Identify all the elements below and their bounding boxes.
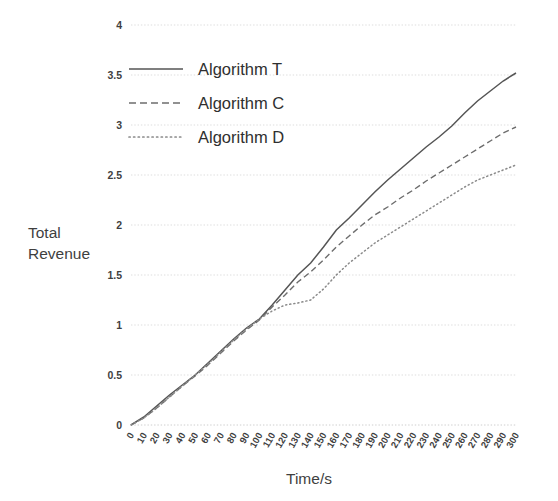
legend-swatch-dashed (128, 97, 184, 109)
legend-label-algorithm-t: Algorithm T (198, 60, 282, 79)
legend-swatch-dotted (128, 131, 184, 143)
y-tick-label: 2 (116, 219, 122, 231)
chart-legend: Algorithm T Algorithm C Algorithm D (128, 52, 284, 154)
x-tick-label: 70 (211, 431, 226, 446)
x-tick-label: 300 (504, 431, 521, 450)
y-tick-label: 2.5 (107, 169, 122, 181)
y-tick-label: 4 (116, 19, 122, 31)
x-tick-label: 80 (224, 431, 239, 446)
y-tick-labels: 00.511.522.533.54 (107, 19, 122, 431)
legend-label-algorithm-d: Algorithm D (198, 128, 284, 147)
legend-item-algorithm-c: Algorithm C (128, 86, 284, 120)
revenue-line-chart: Total Revenue 00.511.522.533.54 01020304… (0, 0, 558, 501)
legend-item-algorithm-t: Algorithm T (128, 52, 284, 86)
x-tick-label: 40 (173, 431, 188, 446)
x-tick-label: 30 (160, 431, 175, 446)
x-tick-label: 60 (198, 431, 213, 446)
legend-swatch-solid (128, 63, 184, 75)
x-axis-title: Time/s (0, 470, 558, 488)
x-tick-label: 10 (134, 431, 149, 446)
x-tick-label: 50 (186, 431, 201, 446)
legend-item-algorithm-d: Algorithm D (128, 120, 284, 154)
y-tick-label: 0 (116, 419, 122, 431)
x-tick-label: 20 (147, 431, 162, 446)
legend-label-algorithm-c: Algorithm C (198, 94, 284, 113)
x-tick-labels: 0102030405060708090100110120130140150160… (124, 431, 521, 450)
y-tick-label: 3 (116, 119, 122, 131)
series-line-algorithm-d (131, 165, 516, 425)
y-tick-label: 1.5 (107, 269, 122, 281)
y-tick-label: 0.5 (107, 369, 122, 381)
y-tick-label: 1 (116, 319, 122, 331)
y-tick-label: 3.5 (107, 69, 122, 81)
